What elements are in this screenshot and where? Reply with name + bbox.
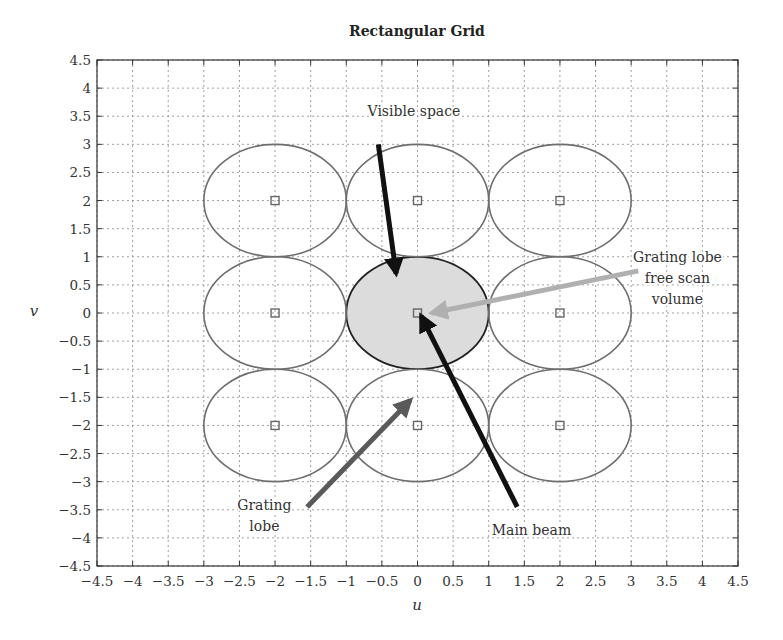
x-tick-label: −4.5 — [81, 573, 114, 589]
x-tick-label: 3 — [627, 573, 636, 589]
y-tick-label: −4.5 — [58, 558, 91, 574]
y-tick-label: 2.5 — [70, 164, 91, 180]
x-tick-label: 4.5 — [727, 573, 748, 589]
y-tick-label: −2.5 — [58, 446, 91, 462]
y-tick-label: −4 — [71, 530, 91, 546]
x-tick-label: 3.5 — [656, 573, 677, 589]
y-tick-label: −2 — [71, 417, 91, 433]
x-tick-label: 0 — [413, 573, 422, 589]
grating-lobe-circle — [204, 257, 346, 369]
annotation-label-grating-lobe: Grating — [237, 497, 291, 513]
y-tick-label: −1 — [71, 361, 91, 377]
y-tick-label: −1.5 — [58, 389, 91, 405]
x-tick-label: 4 — [698, 573, 707, 589]
y-tick-label: 2 — [82, 193, 91, 209]
y-tick-label: 1.5 — [70, 221, 91, 237]
y-tick-label: −3 — [71, 474, 91, 490]
chart: Rectangular Grid −4.5−4−3.5−3−2.5−2−1.5−… — [0, 0, 783, 640]
y-axis-label: v — [30, 302, 39, 320]
x-tick-label: −4 — [123, 573, 143, 589]
annotation-label-grating-lobe-free: Grating lobe — [633, 249, 722, 265]
y-tick-label: 0.5 — [70, 277, 91, 293]
x-tick-label: −0.5 — [365, 573, 398, 589]
chart-title: Rectangular Grid — [349, 23, 485, 39]
x-tick-label: −2 — [265, 573, 285, 589]
x-tick-label: 0.5 — [442, 573, 463, 589]
y-tick-label: −3.5 — [58, 502, 91, 518]
y-tick-label: −0.5 — [58, 333, 91, 349]
annotation-label-grating-lobe-free: volume — [651, 291, 703, 307]
x-tick-label: −3.5 — [152, 573, 185, 589]
x-tick-label: −1 — [336, 573, 356, 589]
x-tick-label: 1.5 — [514, 573, 535, 589]
annotation-label-grating-lobe: lobe — [249, 518, 279, 534]
annotation-label-visible-space: Visible space — [367, 103, 461, 119]
x-axis-label: u — [412, 596, 422, 614]
x-tick-label: 2.5 — [585, 573, 606, 589]
x-tick-label: −2.5 — [223, 573, 256, 589]
y-tick-label: 3.5 — [70, 108, 91, 124]
y-tick-label: 1 — [82, 249, 91, 265]
y-tick-label: 4 — [82, 80, 91, 96]
x-tick-label: 2 — [556, 573, 565, 589]
x-tick-label: −3 — [194, 573, 214, 589]
y-tick-label: 0 — [82, 305, 91, 321]
x-tick-label: 1 — [484, 573, 493, 589]
visible-space-region — [346, 257, 488, 369]
y-tick-label: 4.5 — [70, 52, 91, 68]
y-tick-label: 3 — [82, 136, 91, 152]
annotation-label-main-beam: Main beam — [492, 522, 572, 538]
x-tick-label: −1.5 — [294, 573, 327, 589]
annotation-arrow-visible-space — [378, 144, 396, 273]
grating-lobe-circle — [489, 257, 631, 369]
annotation-label-grating-lobe-free: free scan — [645, 270, 710, 286]
